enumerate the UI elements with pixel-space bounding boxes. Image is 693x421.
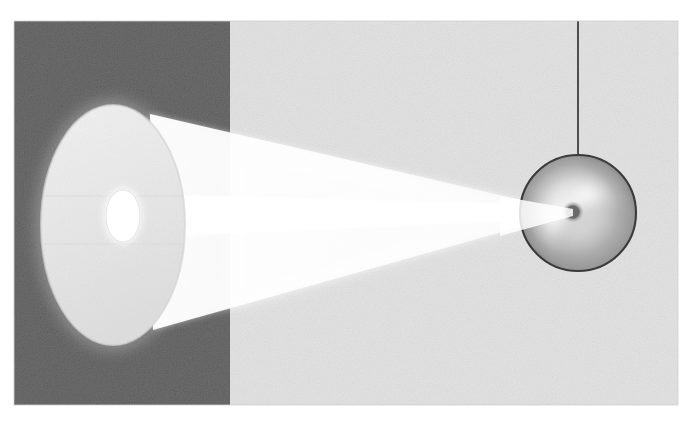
optical-diagram-figure	[0, 0, 693, 421]
figure-root	[0, 0, 693, 421]
reflector-assembly	[35, 99, 191, 351]
